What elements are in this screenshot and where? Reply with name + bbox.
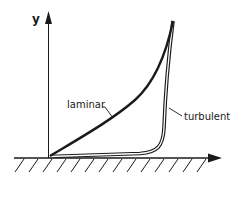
wall xyxy=(14,154,222,173)
y-axis-label: y xyxy=(32,12,40,26)
turbulent-annotation: turbulent xyxy=(169,108,230,122)
laminar-profile xyxy=(50,21,173,156)
y-axis: y xyxy=(32,11,52,158)
turbulent-label: turbulent xyxy=(184,111,230,122)
boundary-layer-diagram: y laminar turbulent xyxy=(0,0,230,203)
x-axis-arrow-icon xyxy=(208,154,222,163)
laminar-label: laminar xyxy=(67,99,106,110)
wall-hatching xyxy=(15,159,206,172)
turbulent-profile xyxy=(50,21,173,157)
laminar-annotation: laminar xyxy=(67,99,113,118)
y-axis-arrow-icon xyxy=(45,11,52,24)
